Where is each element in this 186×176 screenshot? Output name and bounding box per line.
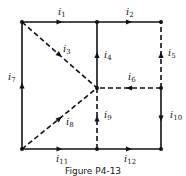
branch-i7 — [19, 22, 24, 149]
node-G — [95, 147, 99, 151]
node-F — [20, 147, 24, 151]
arrow-icon — [94, 52, 99, 58]
node-A — [20, 20, 24, 24]
branch-i10 — [158, 88, 163, 149]
branch-i9 — [94, 88, 99, 149]
arrow-icon — [126, 146, 132, 151]
node-D — [95, 86, 99, 90]
branch-i11 — [22, 146, 97, 151]
branch-label-i4: i4 — [104, 49, 112, 62]
branch-label-i7: i7 — [8, 71, 16, 84]
branch-i5 — [158, 22, 163, 88]
branch-label-i3: i3 — [63, 43, 71, 56]
arrow-icon — [158, 116, 163, 122]
branch-i4 — [94, 22, 99, 88]
branch-label-i8: i8 — [66, 116, 74, 129]
arrow-icon — [94, 116, 99, 122]
arrow-icon — [19, 83, 24, 89]
branch-label-i10: i10 — [170, 109, 182, 122]
branch-i6 — [97, 85, 161, 90]
node-E — [159, 86, 163, 90]
arrow-icon — [126, 85, 132, 90]
circuit-graph-diagram: i1i2i3i4i5i6i7i8i9i10i11i12 Figure P4-13 — [0, 0, 186, 176]
branch-i3 — [22, 22, 97, 88]
branch-i12 — [97, 146, 161, 151]
arrow-icon — [57, 146, 63, 151]
node-C — [159, 20, 163, 24]
arrow-icon — [126, 19, 132, 24]
branch-i1 — [22, 19, 97, 24]
branch-label-i5: i5 — [168, 47, 176, 60]
node-H — [159, 147, 163, 151]
branch-i2 — [97, 19, 161, 24]
figure-caption: Figure P4-13 — [65, 166, 121, 176]
branch-i8 — [22, 88, 97, 149]
branch-label-i1: i1 — [58, 6, 66, 19]
arrow-icon — [56, 51, 62, 57]
arrow-icon — [57, 19, 63, 24]
branch-label-i6: i6 — [128, 71, 136, 84]
branch-label-i2: i2 — [126, 6, 134, 19]
branch-label-i12: i12 — [124, 153, 136, 166]
branch-label-i11: i11 — [56, 153, 68, 166]
node-B — [95, 20, 99, 24]
arrow-icon — [158, 52, 163, 58]
branch-label-i9: i9 — [104, 109, 112, 122]
